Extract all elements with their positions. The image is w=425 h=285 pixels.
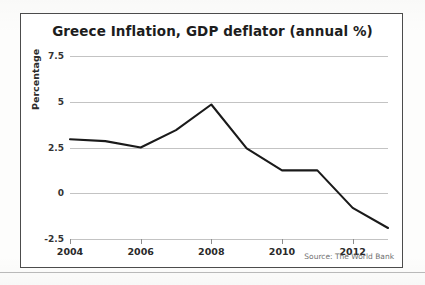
chart-title: Greece Inflation, GDP deflator (annual %…: [21, 23, 404, 39]
chart-figure: Greece Inflation, GDP deflator (annual %…: [20, 13, 403, 268]
x-tick-mark: [211, 239, 212, 244]
x-tick-label: 2004: [57, 246, 83, 257]
plot-area: 7.552.50-2.5: [70, 56, 388, 239]
y-tick-label: 5: [58, 97, 64, 107]
data-line-chart: [70, 56, 388, 239]
y-tick-label: 7.5: [48, 51, 64, 61]
y-axis-label: Percentage: [30, 49, 41, 110]
data-series-line: [70, 105, 388, 229]
page-bottom-rule: [0, 272, 425, 273]
y-tick-label: -2.5: [44, 234, 64, 244]
x-tick-label: 2006: [127, 246, 153, 257]
y-tick-label: 2.5: [48, 143, 64, 153]
x-tick-mark: [282, 239, 283, 244]
x-tick-label: 2010: [269, 246, 295, 257]
x-tick-mark: [141, 239, 142, 244]
y-tick-label: 0: [58, 188, 64, 198]
x-tick-label: 2008: [198, 246, 224, 257]
x-tick-mark: [70, 239, 71, 244]
source-attribution: Source: The World Bank: [304, 252, 394, 261]
x-tick-mark: [353, 239, 354, 244]
